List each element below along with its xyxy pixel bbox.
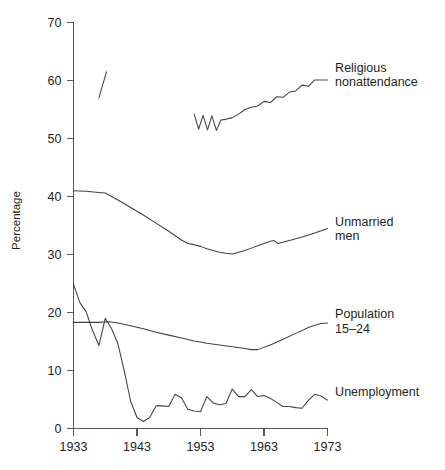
x-tick-label-1973: 1973: [314, 440, 342, 454]
y-tick-label-60: 60: [48, 74, 62, 88]
series-lines: [74, 72, 328, 422]
y-tick-label-40: 40: [48, 190, 62, 204]
y-tick-label-20: 20: [48, 306, 62, 320]
y-axis-title-text: Percentage: [10, 191, 22, 250]
axis-ticks: [67, 23, 328, 436]
y-tick-label-50: 50: [48, 132, 62, 146]
x-tick-label-1943: 1943: [123, 440, 151, 454]
y-tick-label-10: 10: [48, 364, 62, 378]
axis-lines: [74, 23, 328, 429]
series-line-0-1: [194, 80, 327, 130]
series-label-0-line-0: Religious: [335, 61, 386, 75]
series-label-3-line-0: Unemployment: [335, 385, 420, 399]
y-tick-label-30: 30: [48, 248, 62, 262]
x-axis-tick-labels: 19331943195319631973: [60, 440, 342, 454]
series-label-1-line-0: Unmarried: [335, 215, 393, 229]
y-axis-tick-labels: 010203040506070: [48, 16, 62, 436]
x-tick-label-1963: 1963: [250, 440, 278, 454]
series-label-2-line-0: Population: [335, 307, 394, 321]
y-axis-title: Percentage: [10, 191, 22, 250]
series-line-2-0: [74, 322, 328, 350]
series-label-0-line-1: nonattendance: [335, 75, 418, 89]
series-label-2-line-1: 15–24: [335, 322, 370, 336]
y-tick-label-70: 70: [48, 16, 62, 30]
line-chart: 010203040506070 19331943195319631973 Rel…: [0, 0, 445, 470]
series-line-3-0: [74, 284, 328, 421]
series-label-1-line-1: men: [335, 229, 359, 243]
series-labels: ReligiousnonattendanceUnmarriedmenPopula…: [335, 61, 420, 399]
y-tick-label-0: 0: [55, 422, 62, 436]
chart-container: 010203040506070 19331943195319631973 Rel…: [0, 0, 445, 470]
axes: [74, 23, 328, 429]
series-line-0-0: [99, 72, 107, 98]
x-tick-label-1933: 1933: [60, 440, 88, 454]
series-line-1-0: [74, 191, 328, 254]
x-tick-label-1953: 1953: [187, 440, 215, 454]
